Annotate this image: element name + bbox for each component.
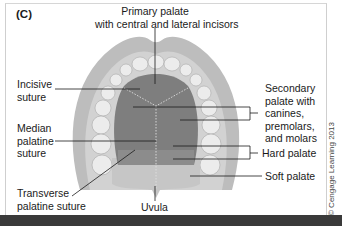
label-line: canines, (265, 107, 317, 120)
label-line: with central and lateral incisors (95, 18, 215, 31)
label-soft-palate: Soft palate (265, 170, 315, 183)
label-line: Primary palate (95, 5, 215, 18)
panel-label: (C) (16, 8, 32, 20)
label-secondary-palate: Secondary palate with canines, premolars… (265, 82, 317, 145)
label-line: Transverse (17, 187, 86, 200)
label-line: Incisive (17, 78, 52, 91)
label-median-palatine-suture: Median palatine suture (17, 122, 54, 160)
copyright-notice: © Cengage Learning 2013 (327, 106, 336, 216)
label-line: Median (17, 122, 54, 135)
label-transverse-palatine-suture: Transverse palatine suture (17, 187, 86, 212)
label-line: palatine suture (17, 200, 86, 213)
label-line: palatine (17, 135, 54, 148)
label-line: suture (17, 91, 52, 104)
label-line: Secondary (265, 82, 317, 95)
label-line: palate with (265, 95, 317, 108)
label-line: premolars, (265, 120, 317, 133)
bottom-bar (0, 215, 342, 226)
label-incisive-suture: Incisive suture (17, 78, 52, 103)
label-hard-palate: Hard palate (262, 147, 316, 160)
label-line: suture (17, 147, 54, 160)
label-uvula: Uvula (141, 201, 168, 214)
label-line: and molars (265, 132, 317, 145)
label-primary-palate: Primary palate with central and lateral … (95, 5, 215, 30)
